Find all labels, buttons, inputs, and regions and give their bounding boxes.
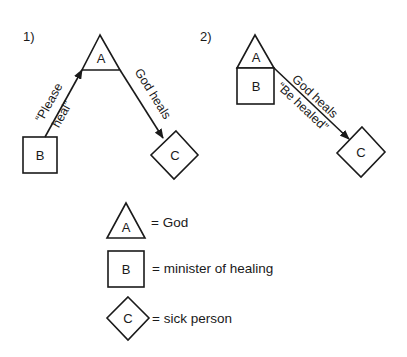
node-c-sick-person-diamond: C	[151, 131, 198, 179]
edge-label-god-heals-1: God heals	[132, 66, 174, 122]
diagram-1-number: 1)	[23, 29, 35, 44]
legend-item-god: A = God	[107, 203, 188, 238]
diagram-1: 1) A B C “Please heal” God heals	[23, 29, 198, 179]
legend: A = God B = minister of healing C = sick…	[107, 203, 273, 340]
node-b-label: B	[252, 79, 261, 94]
healing-diagram-figure: 1) A B C “Please heal” God heals 2)	[0, 0, 407, 357]
node-b-minister-square: B	[237, 68, 274, 104]
legend-item-sick-person: C = sick person	[107, 297, 232, 340]
edge-label-god-heals: God heals	[132, 66, 174, 122]
edge-label-please-heal: “Please heal”	[33, 81, 81, 133]
node-c-label: C	[170, 148, 179, 163]
legend-letter-c: C	[123, 311, 132, 326]
legend-letter-b: B	[122, 262, 131, 277]
legend-letter-a: A	[122, 220, 131, 235]
legend-item-minister: B = minister of healing	[108, 251, 273, 287]
node-a-label: A	[97, 51, 106, 66]
node-c-label: C	[356, 145, 365, 160]
diagram-2: 2) A B C God heals “Be healed”	[200, 29, 385, 177]
legend-meaning-sick-person: = sick person	[152, 311, 232, 326]
node-a-god-triangle: A	[237, 35, 274, 68]
legend-meaning-god: = God	[151, 215, 188, 230]
node-a-label: A	[252, 50, 261, 65]
node-b-minister-square: B	[23, 137, 57, 173]
node-b-label: B	[36, 148, 45, 163]
legend-meaning-minister: = minister of healing	[152, 261, 273, 276]
arrow-ab-to-c	[274, 68, 349, 139]
diagram-2-number: 2)	[200, 29, 212, 44]
node-a-god-triangle: A	[82, 35, 120, 70]
